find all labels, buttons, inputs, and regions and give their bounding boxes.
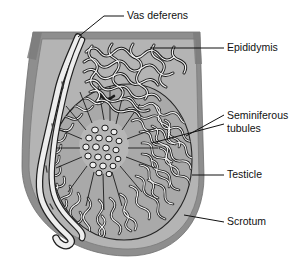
rete-testis-cell [103,145,110,151]
rete-testis-cell [95,154,102,160]
rete-testis-cell [90,162,96,168]
label-epididymis: Epididymis [227,41,278,53]
label-testicle: Testicle [227,168,262,180]
rete-testis-cell [113,147,119,153]
rete-testis-cell [92,127,99,133]
rete-testis-cell [106,136,112,142]
rete-testis-cell [100,163,107,169]
rete-testis-cell [86,135,93,141]
label-vas-deferens: Vas deferens [127,9,188,21]
rete-testis-cell [96,135,103,141]
rete-testis-cell [85,153,91,159]
rete-testis-cell [115,156,121,161]
rete-testis-cell [111,129,117,135]
label-scrotum: Scrotum [227,215,266,227]
rete-testis-cell [106,171,112,176]
label-seminiferous-tubules-line2: tubules [227,122,261,134]
rete-testis-cell [116,138,122,144]
anatomy-diagram-figure: Vas deferens Epididymis Seminiferous tub… [0,0,295,280]
rete-testis-cell [93,144,100,150]
rete-testis-cell [110,163,116,169]
rete-testis-cell [105,154,111,160]
label-seminiferous-tubules-line1: Seminiferous [227,109,288,121]
rete-testis-cell [83,144,89,150]
anatomy-diagram-svg: Vas deferens Epididymis Seminiferous tub… [0,0,295,280]
rete-testis-cell [102,125,108,131]
rete-testis-cell [96,170,102,176]
